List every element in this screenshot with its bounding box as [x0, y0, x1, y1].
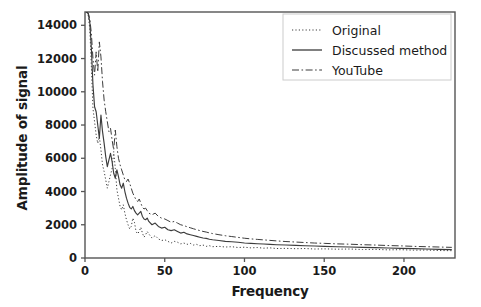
y-tick-label: 0 — [17, 251, 77, 265]
x-tick-label: 200 — [379, 264, 429, 278]
x-tick-label: 100 — [219, 264, 269, 278]
y-tick-label: 12000 — [17, 52, 77, 66]
x-tick-label: 0 — [60, 264, 110, 278]
legend-label-original: Original — [332, 23, 381, 38]
x-axis-label: Frequency — [0, 283, 481, 299]
y-tick-label: 14000 — [17, 18, 77, 32]
legend-label-discussed-method: Discussed method — [332, 43, 447, 58]
chart-legend: OriginalDiscussed methodYouTube — [283, 14, 451, 80]
x-tick-label: 50 — [140, 264, 190, 278]
legend-label-youtube: YouTube — [331, 63, 383, 78]
y-tick-label: 4000 — [17, 185, 77, 199]
y-tick-label: 2000 — [17, 218, 77, 232]
y-tick-label: 10000 — [17, 85, 77, 99]
x-tick-label: 150 — [299, 264, 349, 278]
y-tick-label: 8000 — [17, 118, 77, 132]
chart-figure: OriginalDiscussed methodYouTube Frequenc… — [0, 0, 481, 307]
y-tick-label: 6000 — [17, 151, 77, 165]
y-axis-label: Amplitude of signal — [14, 38, 30, 238]
